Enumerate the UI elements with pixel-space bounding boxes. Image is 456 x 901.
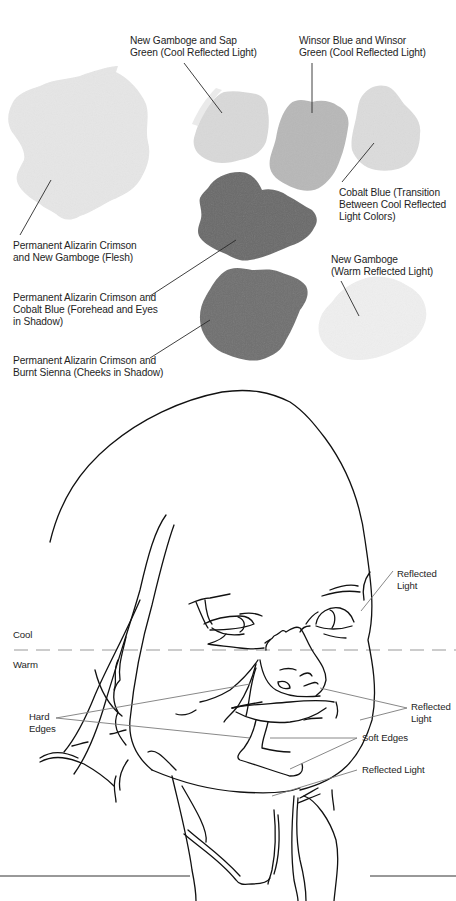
hair-strand-right [130,525,174,770]
nostril-left2 [278,681,290,688]
left-eyebrow-inner [189,594,230,604]
mouth-cheek-line2 [224,664,256,722]
zone-label-cool: Cool [13,629,32,641]
shoulder-fold2 [119,760,128,790]
annotation-line: Reflected [411,701,451,713]
collar-left2 [188,830,240,876]
illustration-page: New Gamboge and Sap Green (Cool Reflecte… [0,0,456,901]
right-eye-iris [330,610,335,628]
nostril-right [300,673,312,676]
annotation-leaders [56,571,407,796]
neck-line-left [172,776,196,901]
annotation-reflected-light-right: Reflected Light [411,701,451,724]
right-lower-lid [324,634,346,638]
right-shoulder [304,796,338,901]
annotation-line: Light [411,713,451,725]
right-eye-lower [316,626,352,629]
finger-detail [262,722,290,752]
mouth-corner [336,702,338,718]
zone-text: Cool [13,629,32,641]
collar-strap [148,751,176,770]
right-shoulder-inner [297,798,306,901]
annotation-line: Hard [29,711,56,723]
shoulder-fold [114,776,116,802]
collar-left [184,834,270,884]
nostril-right2 [304,682,318,686]
annotation-line: Reflected [397,568,437,580]
right-cheek-contour [363,572,370,600]
annotation-reflected-light-top: Reflected Light [397,568,437,591]
lower-lip [236,708,326,723]
zone-label-warm: Warm [13,659,38,671]
cheek-mark [176,710,196,715]
zone-text: Warm [13,659,38,671]
hair-tip [72,742,88,746]
shoulder-left [40,758,114,786]
right-eyebrow [330,585,358,590]
nose-bridge [265,627,326,696]
left-eye-iris [238,617,244,632]
annotation-soft-edges: Soft Edges [362,732,408,744]
right-shoulder-fold [332,790,334,810]
annotation-hard-edges: Hard Edges [29,711,56,734]
annotation-reflected-light-chin: Reflected Light [362,764,425,776]
chin-line [152,770,300,793]
annotation-line: Soft Edges [362,732,408,744]
hair-strand-inner [64,600,140,752]
nose-left-shadow [300,626,310,632]
left-eyebrow [240,613,262,616]
right-collar-mark2 [298,794,320,803]
annotation-line: Reflected Light [362,764,425,776]
nose-under [260,660,320,697]
annotation-line: Light [397,580,437,592]
hair-strand-left [74,515,166,774]
left-lower-lid [208,634,264,649]
annotation-line: Edges [29,723,56,735]
right-eyebrow2 [322,591,360,596]
mouth-cheek-line3 [246,668,256,716]
nostril-left [280,669,296,671]
head-outline [50,390,375,790]
